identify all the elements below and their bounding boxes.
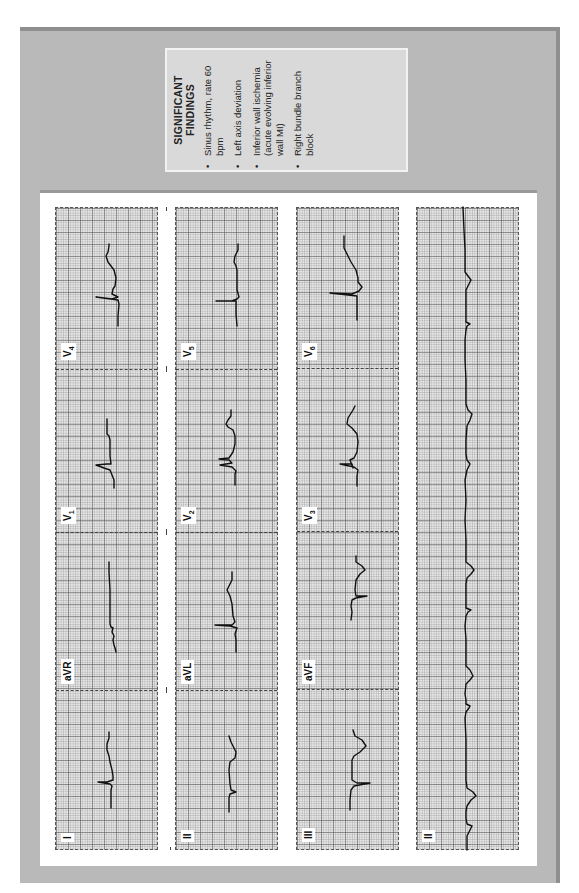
calibration-tick <box>170 847 171 850</box>
calibration-tick <box>166 207 167 211</box>
finding-item: Right bundle branch block <box>292 50 315 156</box>
lead-label-i: I <box>61 833 74 842</box>
lead-divider <box>56 532 157 533</box>
finding-item: Left axis deviation <box>232 50 244 156</box>
lead-divider <box>297 368 398 369</box>
lead-divider <box>297 531 398 532</box>
ecg-strip-column-2: V5 V2 aVL II <box>175 207 278 850</box>
lead-label-v4: V4 <box>61 343 76 360</box>
calibration-tick <box>166 529 167 535</box>
calibration-tick <box>166 366 167 372</box>
lead-divider <box>176 369 277 370</box>
lead-label-v1: V1 <box>61 507 76 524</box>
lead-label-rhythm-ii: II <box>422 830 435 842</box>
lead-label-v2: V2 <box>181 507 196 524</box>
lead-divider <box>56 690 157 691</box>
ecg-strip-column-1: V4 V1 aVR I <box>55 207 158 850</box>
findings-title: SIGNIFICANT FINDINGS <box>172 50 196 170</box>
lead-divider <box>176 690 277 691</box>
lead-label-v6: V6 <box>302 343 317 360</box>
findings-list: Sinus rhythm, rate 60 bpm Left axis devi… <box>202 50 315 170</box>
significant-findings-box: SIGNIFICANT FINDINGS Sinus rhythm, rate … <box>165 48 408 172</box>
lead-label-ii: II <box>181 830 194 842</box>
finding-item: Sinus rhythm, rate 60 bpm <box>202 50 225 156</box>
lead-label-avf: aVF <box>302 660 315 684</box>
lead-divider <box>297 689 398 690</box>
lead-label-iii: III <box>302 828 315 842</box>
lead-label-avr: aVR <box>61 659 74 684</box>
lead-label-v3: V3 <box>302 507 317 524</box>
lead-divider <box>176 532 277 533</box>
lead-divider <box>56 369 157 370</box>
calibration-tick <box>166 687 167 693</box>
ecg-strip-column-3: V6 V3 aVF III <box>296 207 399 850</box>
lead-label-avl: aVL <box>181 660 194 684</box>
finding-item: Inferior wall ischemia (acute evolving i… <box>250 50 285 156</box>
findings-content: SIGNIFICANT FINDINGS Sinus rhythm, rate … <box>168 50 406 170</box>
lead-label-v5: V5 <box>181 343 196 360</box>
rhythm-strip-ii: II <box>416 207 519 850</box>
